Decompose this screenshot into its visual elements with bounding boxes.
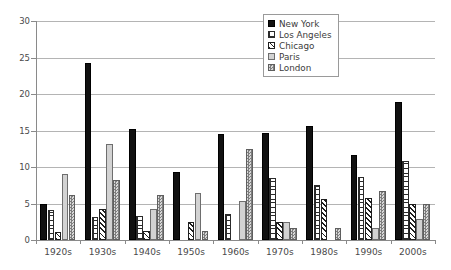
legend-swatch-chicago bbox=[268, 42, 275, 49]
x-axis-line bbox=[36, 240, 435, 241]
bar-losangeles-1960s bbox=[225, 214, 232, 240]
x-tick-label-1960s: 1960s bbox=[214, 247, 258, 258]
bar-london-1920s bbox=[69, 195, 76, 240]
x-tick-mark bbox=[213, 240, 214, 244]
gridline bbox=[36, 131, 435, 132]
legend-label-paris: Paris bbox=[279, 52, 300, 62]
gridline bbox=[36, 21, 435, 22]
bar-newyork-1930s bbox=[85, 63, 92, 240]
x-tick-mark bbox=[302, 240, 303, 244]
bar-chicago-1930s bbox=[99, 209, 106, 240]
x-tick-label-1970s: 1970s bbox=[258, 247, 302, 258]
x-tick-mark bbox=[346, 240, 347, 244]
x-tick-label-1940s: 1940s bbox=[125, 247, 169, 258]
bar-paris-2000s bbox=[416, 219, 423, 240]
gridline bbox=[36, 94, 435, 95]
bar-paris-1990s bbox=[372, 228, 379, 240]
y-tick-label: 10 bbox=[2, 163, 30, 172]
bar-paris-1960s bbox=[239, 201, 246, 240]
legend-label-losangeles: Los Angeles bbox=[279, 30, 332, 40]
bar-chicago-1920s bbox=[55, 232, 62, 240]
bar-losangeles-1970s bbox=[269, 178, 276, 240]
bar-chicago-1940s bbox=[143, 231, 150, 240]
legend-label-chicago: Chicago bbox=[279, 41, 314, 51]
y-tick-label: 20 bbox=[2, 90, 30, 99]
y-tick-label: 25 bbox=[2, 54, 30, 63]
legend-swatch-paris bbox=[268, 53, 275, 60]
legend-label-newyork: New York bbox=[279, 19, 319, 29]
bar-chicago-1980s bbox=[321, 199, 328, 240]
bar-newyork-1960s bbox=[218, 134, 225, 240]
bar-newyork-1990s bbox=[351, 155, 358, 240]
x-tick-mark bbox=[391, 240, 392, 244]
bar-newyork-1950s bbox=[173, 172, 180, 240]
bar-paris-1930s bbox=[106, 144, 113, 240]
bar-chicago-1990s bbox=[365, 198, 372, 240]
y-tick-label: 30 bbox=[2, 17, 30, 26]
legend-item-losangeles[interactable]: Los Angeles bbox=[268, 29, 332, 40]
bar-losangeles-1930s bbox=[92, 217, 99, 240]
legend-swatch-losangeles bbox=[268, 31, 275, 38]
bar-losangeles-2000s bbox=[402, 161, 409, 240]
bar-chicago-1970s bbox=[276, 222, 283, 240]
legend-item-newyork[interactable]: New York bbox=[268, 18, 332, 29]
x-tick-label-1930s: 1930s bbox=[81, 247, 125, 258]
gridline bbox=[36, 58, 435, 59]
bar-london-1970s bbox=[290, 228, 297, 240]
bar-newyork-1940s bbox=[129, 129, 136, 240]
x-tick-mark bbox=[36, 240, 37, 244]
x-tick-mark bbox=[258, 240, 259, 244]
bar-losangeles-1990s bbox=[358, 177, 365, 241]
x-tick-mark bbox=[80, 240, 81, 244]
bar-newyork-1970s bbox=[262, 133, 269, 240]
bar-losangeles-1920s bbox=[48, 210, 55, 240]
legend: New YorkLos AngelesChicagoParisLondon bbox=[263, 14, 339, 77]
bar-london-1990s bbox=[379, 191, 386, 240]
bar-paris-1940s bbox=[150, 209, 157, 240]
bar-paris-1950s bbox=[195, 193, 202, 240]
y-tick-label: 0 bbox=[2, 236, 30, 245]
x-tick-label-1920s: 1920s bbox=[36, 247, 80, 258]
bar-chart: 051015202530 1920s1930s1940s1950s1960s19… bbox=[0, 0, 451, 270]
y-axis-line bbox=[36, 21, 37, 241]
x-tick-mark bbox=[125, 240, 126, 244]
gridline bbox=[36, 167, 435, 168]
bar-london-1940s bbox=[157, 195, 164, 240]
x-tick-mark bbox=[435, 240, 436, 244]
legend-swatch-newyork bbox=[268, 20, 275, 27]
bar-newyork-1980s bbox=[306, 126, 313, 240]
bar-newyork-1920s bbox=[40, 204, 47, 241]
bar-losangeles-1980s bbox=[314, 185, 321, 240]
bar-paris-1920s bbox=[62, 174, 69, 240]
legend-swatch-london bbox=[268, 64, 275, 71]
bar-london-1980s bbox=[335, 228, 342, 240]
x-tick-mark bbox=[169, 240, 170, 244]
x-tick-label-1980s: 1980s bbox=[302, 247, 346, 258]
x-tick-label-1950s: 1950s bbox=[169, 247, 213, 258]
x-tick-label-1990s: 1990s bbox=[347, 247, 391, 258]
gridline bbox=[36, 204, 435, 205]
x-tick-label-2000s: 2000s bbox=[391, 247, 435, 258]
bar-chicago-1950s bbox=[188, 222, 195, 240]
bar-losangeles-1940s bbox=[136, 216, 143, 240]
bar-london-1960s bbox=[246, 149, 253, 240]
bar-paris-1970s bbox=[283, 222, 290, 240]
legend-item-paris[interactable]: Paris bbox=[268, 51, 332, 62]
y-tick-label: 15 bbox=[2, 127, 30, 136]
bar-london-2000s bbox=[423, 204, 430, 240]
bar-london-1950s bbox=[202, 231, 209, 240]
bar-chicago-2000s bbox=[409, 204, 416, 240]
legend-item-london[interactable]: London bbox=[268, 62, 332, 73]
bar-newyork-2000s bbox=[395, 102, 402, 240]
bar-london-1930s bbox=[113, 180, 120, 240]
legend-item-chicago[interactable]: Chicago bbox=[268, 40, 332, 51]
y-tick-label: 5 bbox=[2, 200, 30, 209]
legend-label-london: London bbox=[279, 63, 311, 73]
